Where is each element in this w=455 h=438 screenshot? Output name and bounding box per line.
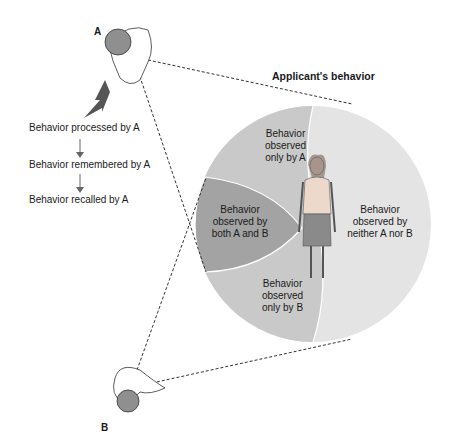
- label-line: Behavior: [335, 204, 425, 216]
- label-only-b: Behavior observed only by B: [245, 278, 320, 314]
- chain-step-processed: Behavior processed by A: [29, 122, 140, 133]
- label-line: both A and B: [200, 228, 280, 240]
- label-line: observed by: [335, 216, 425, 228]
- label-line: Behavior: [248, 128, 323, 140]
- arrow-from-a-icon: [84, 80, 110, 118]
- chain-step-remembered: Behavior remembered by A: [29, 159, 150, 170]
- label-line: Behavior: [200, 204, 280, 216]
- label-line: Behavior: [245, 278, 320, 290]
- label-line: observed by: [200, 216, 280, 228]
- person-b-label: B: [101, 422, 108, 433]
- label-both: Behavior observed by both A and B: [200, 204, 280, 240]
- person-a-figure: [105, 28, 152, 84]
- label-only-a: Behavior observed only by A: [248, 128, 323, 164]
- diagram-title: Applicant's behavior: [272, 70, 375, 82]
- label-line: neither A nor B: [335, 228, 425, 240]
- label-line: only by A: [248, 152, 323, 164]
- label-line: observed: [248, 140, 323, 152]
- person-a-label: A: [94, 26, 101, 37]
- label-neither: Behavior observed by neither A nor B: [335, 204, 425, 240]
- label-line: observed: [245, 290, 320, 302]
- person-b-figure: [114, 367, 165, 412]
- label-line: only by B: [245, 302, 320, 314]
- chain-step-recalled: Behavior recalled by A: [29, 194, 129, 205]
